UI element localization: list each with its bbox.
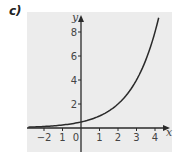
y-tick-label: 6 xyxy=(71,51,77,62)
x-tick-label: −2 xyxy=(37,132,52,143)
x-tick-label: 2 xyxy=(115,132,121,143)
x-axis-label: x xyxy=(166,126,173,139)
x-tick-label: 0 xyxy=(73,132,79,143)
y-tick-label: 8 xyxy=(71,27,77,38)
y-axis-label: y xyxy=(71,11,79,24)
exponential-chart: −21012342468 x y xyxy=(0,0,181,162)
x-tick-label: 1 xyxy=(59,132,65,143)
y-tick-label: 4 xyxy=(71,75,77,86)
x-tick-label: 1 xyxy=(96,132,102,143)
x-tick-label: 4 xyxy=(152,132,158,143)
y-tick-label: 2 xyxy=(71,99,77,110)
x-tick-label: 3 xyxy=(133,132,139,143)
